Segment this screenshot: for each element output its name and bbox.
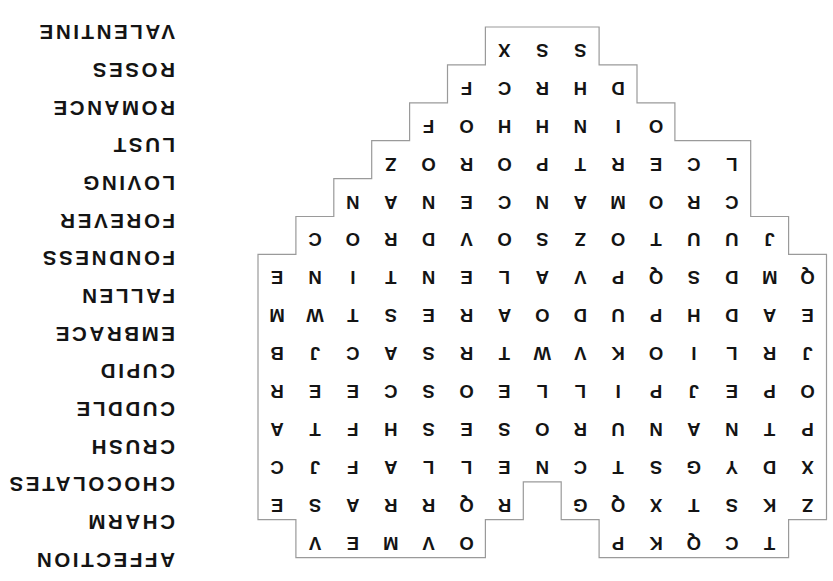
grid-cell: C xyxy=(372,372,410,410)
grid-cell: F xyxy=(334,448,372,486)
word-list-item: FALLEN xyxy=(7,277,175,315)
grid-cell: D xyxy=(410,220,448,258)
grid-cell: P xyxy=(599,258,637,296)
grid-cell: K xyxy=(751,486,789,524)
grid-cell xyxy=(751,145,789,183)
grid-cell: R xyxy=(258,372,296,410)
grid-cell xyxy=(372,69,410,107)
grid-cell xyxy=(751,107,789,145)
grid-cell xyxy=(334,31,372,69)
grid-cell: D xyxy=(751,448,789,486)
grid-cell: J xyxy=(789,334,827,372)
grid-cell: I xyxy=(334,258,372,296)
grid-row: XDYGSTCNELLAFJC xyxy=(258,444,827,482)
grid-cell: O xyxy=(637,182,675,220)
grid-cell xyxy=(637,69,675,107)
grid-cell: S xyxy=(523,31,561,69)
grid-cell: T xyxy=(561,145,599,183)
grid-cell xyxy=(410,31,448,69)
grid-cell xyxy=(334,145,372,183)
grid-cell: L xyxy=(523,372,561,410)
grid-cell: O xyxy=(637,334,675,372)
grid-cell: A xyxy=(751,296,789,334)
grid-cell xyxy=(751,31,789,69)
grid-cell: C xyxy=(334,334,372,372)
grid-cell: J xyxy=(296,448,334,486)
grid-cell: E xyxy=(637,145,675,183)
grid-cell: V xyxy=(448,220,486,258)
grid-cell: O xyxy=(523,410,561,448)
grid-cell: T xyxy=(751,523,789,561)
grid-cell: N xyxy=(410,182,448,220)
grid-cell: A xyxy=(258,410,296,448)
grid-cell: F xyxy=(448,69,486,107)
grid-cell: P xyxy=(751,372,789,410)
grid-cell: E xyxy=(448,182,486,220)
grid-cell: K xyxy=(637,523,675,561)
grid-cell: N xyxy=(334,182,372,220)
grid-cell: O xyxy=(410,145,448,183)
grid-cell xyxy=(258,69,296,107)
grid-cell xyxy=(523,486,561,524)
grid-cell xyxy=(675,69,713,107)
grid-cell: B xyxy=(258,334,296,372)
grid-cell: D xyxy=(713,258,751,296)
grid-cell: C xyxy=(485,182,523,220)
grid-row: LCERTPOROZ xyxy=(258,141,827,179)
grid-cell: J xyxy=(296,334,334,372)
word-list-item: ROMANCE xyxy=(7,89,175,127)
grid-cell: R xyxy=(599,145,637,183)
grid-cell: C xyxy=(258,448,296,486)
word-list-item: CHARM xyxy=(7,503,175,541)
grid-cell: H xyxy=(372,410,410,448)
grid-cell: E xyxy=(789,296,827,334)
grid-cell xyxy=(713,69,751,107)
grid-row: QMDSQPVALENTINE xyxy=(258,254,827,292)
grid-cell: E xyxy=(296,372,334,410)
grid-cell: T xyxy=(485,334,523,372)
grid-cell: N xyxy=(637,410,675,448)
grid-cell: C xyxy=(296,220,334,258)
grid-cell: T xyxy=(334,296,372,334)
grid-cell: A xyxy=(372,182,410,220)
grid-cell: G xyxy=(561,486,599,524)
grid-cell xyxy=(258,220,296,258)
grid-cell: U xyxy=(599,410,637,448)
grid-cell xyxy=(789,523,827,561)
grid-cell: M xyxy=(258,296,296,334)
grid-cell: O xyxy=(789,372,827,410)
grid-cell: S xyxy=(410,410,448,448)
word-list-item: CUPID xyxy=(7,353,175,391)
grid-cell xyxy=(296,107,334,145)
grid-cell xyxy=(713,107,751,145)
grid-cell: R xyxy=(751,334,789,372)
grid-cell: C xyxy=(713,182,751,220)
grid-cell: E xyxy=(334,523,372,561)
grid-cell: H xyxy=(561,69,599,107)
grid-cell: Z xyxy=(372,145,410,183)
grid-row: ZKSTXQGRQRRASE xyxy=(258,482,827,520)
grid-cell xyxy=(258,107,296,145)
grid-cell: F xyxy=(334,410,372,448)
letter-grid: TCQKPOVMEV ZKSTXQGRQRRASE XDYGSTCNELLAFJ… xyxy=(258,27,827,557)
grid-cell: A xyxy=(675,410,713,448)
grid-cell: Q xyxy=(599,486,637,524)
grid-cell xyxy=(258,31,296,69)
grid-cell: P xyxy=(789,410,827,448)
grid-cell: O xyxy=(637,107,675,145)
grid-cell: N xyxy=(561,107,599,145)
grid-cell xyxy=(561,523,599,561)
grid-cell: E xyxy=(713,372,751,410)
grid-cell: R xyxy=(485,486,523,524)
grid-cell: A xyxy=(523,258,561,296)
grid-cell: Q xyxy=(448,486,486,524)
grid-cell: C xyxy=(561,448,599,486)
grid-cell: E xyxy=(485,448,523,486)
grid-cell xyxy=(258,145,296,183)
grid-cell: H xyxy=(675,296,713,334)
grid-cell: R xyxy=(372,486,410,524)
grid-cell: H xyxy=(523,107,561,145)
grid-cell: R xyxy=(372,220,410,258)
word-list-item: EMBRACE xyxy=(7,315,175,353)
grid-cell xyxy=(789,145,827,183)
